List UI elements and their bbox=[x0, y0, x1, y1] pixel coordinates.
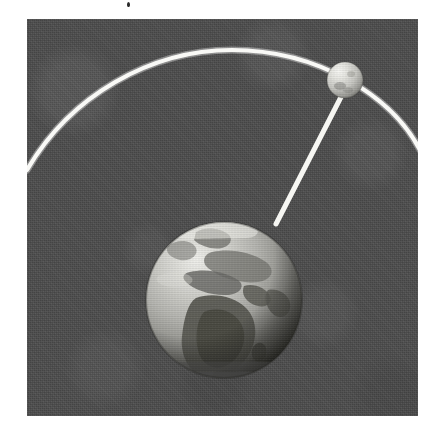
page-margin-top bbox=[0, 0, 273, 19]
print-blotch-overlay bbox=[27, 19, 418, 416]
page-margin-right bbox=[418, 0, 437, 442]
page-margin-left bbox=[0, 0, 27, 442]
halftone-noise-overlay bbox=[27, 19, 418, 416]
illustration-plate bbox=[27, 19, 418, 416]
scan-speck-artifact bbox=[127, 2, 130, 7]
page-margin-bottom bbox=[0, 416, 437, 442]
illustration-scene bbox=[0, 0, 437, 442]
